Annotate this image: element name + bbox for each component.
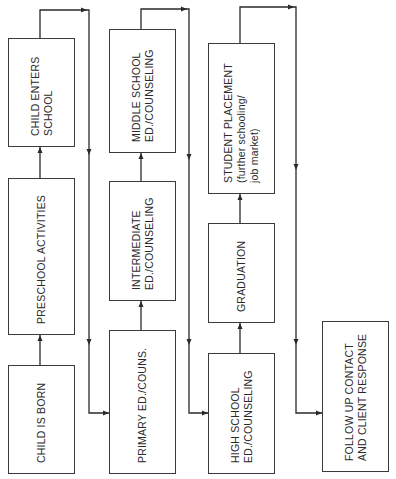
box-label-line: job market): [248, 128, 260, 184]
flow-box-follow-up-contact: FOLLOW UP CONTACTAND CLIENT RESPONSE: [323, 322, 389, 472]
box-label-line: ED./COUNSELING: [242, 370, 254, 463]
flow-box-high-school-ed-counseling: HIGH SCHOOLED./COUNSELING: [209, 354, 275, 474]
flow-box-child-is-born: CHILD IS BORN: [9, 366, 75, 474]
flow-box-preschool-activities: PRESCHOOL ACTIVITIES: [9, 179, 75, 335]
box-label-line: MIDDLE SCHOOL: [130, 52, 142, 142]
box-label-line: ED./COUNSELING: [143, 49, 155, 142]
boxes: CHILD IS BORNPRESCHOOL ACTIVITIESCHILD E…: [9, 30, 389, 474]
box-label-line: CHILD ENTERS: [29, 57, 41, 136]
flowchart-diagram: CHILD IS BORNPRESCHOOL ACTIVITIESCHILD E…: [0, 0, 396, 479]
arrow-right-icon: [202, 411, 208, 416]
flow-box-middle-school-ed-counseling: MIDDLE SCHOOLED./COUNSELING: [110, 30, 176, 153]
flow-box-student-placement: STUDENT PLACEMENT(further schooling/job …: [209, 44, 275, 194]
flow-box-graduation: GRADUATION: [209, 224, 275, 323]
connectors: [38, 5, 323, 416]
box-label-line: SCHOOL: [42, 90, 54, 136]
arrow-right-icon: [81, 8, 87, 13]
arrow-down-icon: [294, 339, 299, 345]
box-label-line: (further schooling/: [235, 95, 247, 183]
arrow-right-icon: [316, 411, 322, 416]
box-label-line: GRADUATION: [235, 241, 247, 312]
arrow-up-icon: [139, 153, 144, 159]
arrow-right-icon: [103, 411, 109, 416]
box-label-line: INTERMEDIATE: [130, 210, 142, 290]
flow-box-primary-ed-couns: PRIMARY ED./COUNS.: [110, 331, 176, 474]
box-label-line: CHILD IS BORN: [35, 383, 47, 463]
arrow-down-icon: [187, 339, 192, 345]
arrow-right-icon: [288, 5, 294, 10]
box-label-line: HIGH SCHOOL: [229, 387, 241, 463]
arrow-down-icon: [294, 164, 299, 170]
arrow-up-icon: [38, 335, 43, 341]
box-label-line: FOLLOW UP CONTACT: [343, 343, 355, 461]
arrow-up-icon: [238, 323, 243, 329]
box-label-line: STUDENT PLACEMENT: [222, 63, 234, 183]
box-label-line: ED./COUNSELING: [143, 197, 155, 290]
box-label-line: AND CLIENT RESPONSE: [356, 334, 368, 461]
arrow-right-icon: [181, 7, 187, 12]
flow-box-intermediate-ed-counseling: INTERMEDIATEED./COUNSELING: [110, 182, 176, 301]
arrow-up-icon: [139, 301, 144, 307]
box-label-line: PRIMARY ED./COUNS.: [136, 348, 148, 463]
arrow-up-icon: [38, 147, 43, 153]
box-label-line: PRESCHOOL ACTIVITIES: [35, 195, 47, 324]
arrow-down-icon: [87, 339, 92, 345]
arrow-down-icon: [187, 154, 192, 160]
arrow-down-icon: [87, 149, 92, 155]
arrow-up-icon: [238, 194, 243, 200]
flow-box-child-enters-school: CHILD ENTERSSCHOOL: [9, 39, 75, 147]
